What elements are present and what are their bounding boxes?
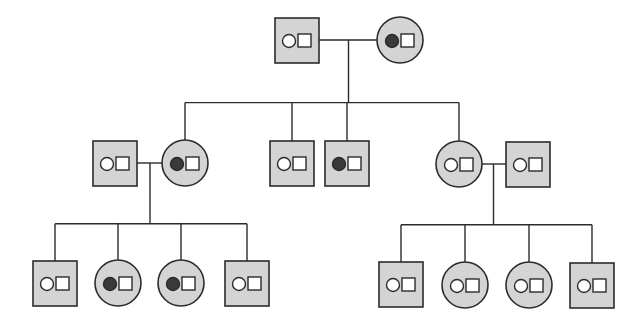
second-chromosome-icon (119, 277, 132, 290)
female-circle-icon (377, 17, 423, 63)
female-symbol-II-2 (162, 140, 208, 186)
second-chromosome-icon (402, 278, 415, 291)
male-square-icon (275, 18, 319, 63)
female-symbol-III-2 (95, 260, 141, 306)
male-symbol-III-5 (379, 262, 423, 307)
x-chromosome-icon (101, 158, 114, 171)
female-circle-icon (506, 262, 552, 308)
pedigree-diagram (0, 0, 640, 330)
second-chromosome-icon (401, 34, 414, 47)
female-circle-icon (442, 262, 488, 308)
male-square-icon (225, 261, 269, 306)
male-symbol-III-8 (570, 263, 614, 308)
x-chromosome-icon (278, 158, 291, 171)
second-chromosome-icon (56, 277, 69, 290)
x-chromosome-icon (515, 280, 528, 293)
male-symbol-II-3 (270, 141, 314, 186)
female-symbol-I-2 (377, 17, 423, 63)
male-symbol-I-1 (275, 18, 319, 63)
affected-x-chromosome-icon (333, 158, 346, 171)
affected-x-chromosome-icon (167, 278, 180, 291)
x-chromosome-icon (451, 280, 464, 293)
female-circle-icon (436, 141, 482, 187)
female-symbol-III-6 (442, 262, 488, 308)
male-symbol-III-4 (225, 261, 269, 306)
male-square-icon (93, 141, 137, 186)
male-symbol-II-6 (506, 142, 550, 187)
male-square-icon (570, 263, 614, 308)
male-square-icon (506, 142, 550, 187)
second-chromosome-icon (466, 279, 479, 292)
female-circle-icon (162, 140, 208, 186)
male-square-icon (325, 141, 369, 186)
second-chromosome-icon (298, 34, 311, 47)
pedigree-symbols (33, 17, 614, 308)
second-chromosome-icon (530, 279, 543, 292)
second-chromosome-icon (348, 157, 361, 170)
affected-x-chromosome-icon (171, 158, 184, 171)
second-chromosome-icon (248, 277, 261, 290)
x-chromosome-icon (445, 159, 458, 172)
x-chromosome-icon (283, 35, 296, 48)
second-chromosome-icon (529, 158, 542, 171)
male-symbol-III-1 (33, 261, 77, 306)
affected-x-chromosome-icon (104, 278, 117, 291)
x-chromosome-icon (514, 159, 527, 172)
male-symbol-II-4 (325, 141, 369, 186)
male-square-icon (379, 262, 423, 307)
second-chromosome-icon (186, 157, 199, 170)
second-chromosome-icon (593, 279, 606, 292)
second-chromosome-icon (293, 157, 306, 170)
affected-x-chromosome-icon (386, 35, 399, 48)
female-circle-icon (158, 260, 204, 306)
female-circle-icon (95, 260, 141, 306)
x-chromosome-icon (233, 278, 246, 291)
female-symbol-III-7 (506, 262, 552, 308)
x-chromosome-icon (387, 279, 400, 292)
x-chromosome-icon (578, 280, 591, 293)
x-chromosome-icon (41, 278, 54, 291)
female-symbol-II-5 (436, 141, 482, 187)
female-symbol-III-3 (158, 260, 204, 306)
second-chromosome-icon (460, 158, 473, 171)
male-square-icon (33, 261, 77, 306)
second-chromosome-icon (182, 277, 195, 290)
male-symbol-II-1 (93, 141, 137, 186)
second-chromosome-icon (116, 157, 129, 170)
male-square-icon (270, 141, 314, 186)
